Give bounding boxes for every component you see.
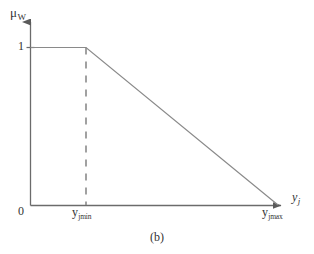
- y-axis-label-base: μ: [10, 5, 17, 20]
- ymin-axis-label: yjmin: [72, 206, 91, 220]
- x-axis-label-subscript: j: [298, 196, 301, 206]
- ymax-axis-label: yjmax: [262, 206, 283, 220]
- x-axis-label: yj: [292, 191, 300, 206]
- ymin-label-subscript: jmin: [78, 212, 91, 221]
- figure-container: μW yj 1 0 yjmin yjmax (b): [0, 0, 314, 254]
- ymax-label-subscript: jmax: [268, 212, 282, 221]
- y-axis-label: μW: [10, 6, 26, 22]
- membership-function-curve: [31, 48, 279, 206]
- y-axis-label-subscript: W: [17, 12, 26, 22]
- origin-label: 0: [18, 205, 24, 217]
- y-tick-label-one: 1: [18, 40, 24, 52]
- x-axis-label-base: y: [292, 190, 297, 204]
- figure-caption: (b): [0, 231, 314, 243]
